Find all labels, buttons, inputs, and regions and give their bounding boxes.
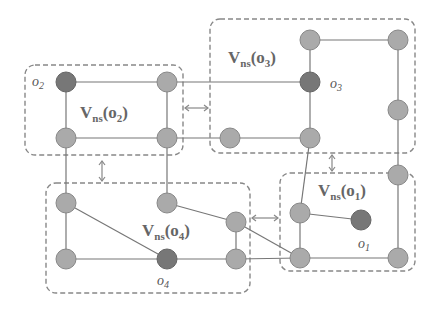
node [157, 128, 177, 148]
node [157, 193, 177, 213]
object-label-o4: o4 [157, 273, 169, 290]
node [226, 249, 246, 269]
node [388, 248, 408, 268]
object-node-o3 [300, 72, 320, 92]
node [290, 248, 310, 268]
node [388, 100, 408, 120]
region-label-o2: Vns(o2) [80, 103, 128, 124]
node [56, 193, 76, 213]
node [300, 30, 320, 50]
object-node-o2 [56, 72, 76, 92]
node [56, 128, 76, 148]
separation-arrow-o2-o3 [185, 105, 208, 111]
node [300, 128, 320, 148]
node [388, 30, 408, 50]
object-node-o1 [351, 210, 371, 230]
object-label-o1: o1 [358, 236, 370, 253]
node [220, 128, 240, 148]
region-label-o1: Vns(o1) [318, 181, 366, 202]
node [290, 203, 310, 223]
node [157, 72, 177, 92]
object-label-o3: o3 [330, 76, 342, 93]
node [56, 249, 76, 269]
graph-diagram: Vns(o2) Vns(o3) Vns(o1) Vns(o4) o2 o3 o1… [0, 0, 448, 310]
object-node-o4 [157, 249, 177, 269]
node [388, 165, 408, 185]
separation-arrow-o4-o1 [252, 215, 278, 221]
separation-arrow-o2-o4 [99, 161, 105, 181]
region-label-o4: Vns(o4) [142, 221, 190, 242]
node [226, 212, 246, 232]
separation-arrow-o3-o1 [329, 155, 335, 171]
region-label-o3: Vns(o3) [228, 48, 276, 69]
object-label-o2: o2 [32, 74, 44, 91]
